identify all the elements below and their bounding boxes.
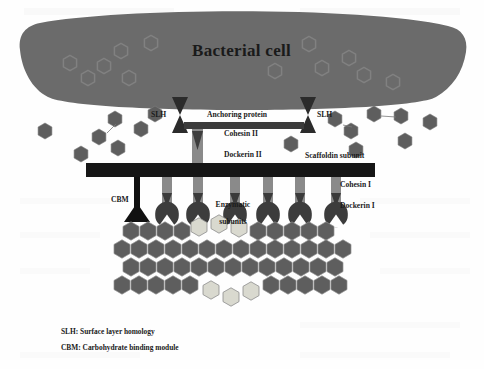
enzymatic-subunit — [155, 177, 179, 227]
label-cohesin-i: Cohesin I — [340, 181, 371, 189]
page-title: Bacterial cell — [192, 42, 291, 60]
substrate-row — [114, 276, 347, 306]
enzymatic-subunit — [288, 177, 312, 227]
label-dockerin-ii: Dockerin II — [224, 151, 262, 159]
label-cohesin-ii: Cohesin II — [224, 130, 258, 138]
cellulose-substrate — [114, 215, 351, 306]
substrate-row — [114, 240, 351, 258]
cohesin-dockerin-II-stem — [192, 129, 203, 163]
label-anchoring-protein: Anchoring protein — [207, 111, 267, 119]
legend-item-slh: SLH: Surface layer homology — [61, 328, 155, 336]
legend-item-cbm: CBM: Carbohydrate binding module — [61, 344, 179, 352]
label-dockerin-i: Dockerin I — [340, 202, 375, 210]
label-cbm: CBM — [111, 196, 129, 204]
anchoring-protein-bar — [184, 122, 304, 129]
label-enzymatic-subunits-line1: Enzymatic — [216, 200, 251, 209]
substrate-row — [123, 258, 343, 276]
label-scaffoldin-subunit: Scaffoldin subunit — [305, 152, 364, 160]
label-slh-left: SLH — [151, 111, 166, 119]
label-enzymatic-subunits-line2: subunits — [219, 217, 246, 226]
scaffoldin-subunit-bar — [86, 163, 375, 177]
label-slh-right: SLH — [317, 111, 332, 119]
enzymatic-subunit — [256, 177, 280, 227]
free-hexagons-left — [38, 106, 162, 162]
bacterial-cell-body — [20, 11, 467, 110]
label-enzymatic-subunits: Enzymatic subunits — [203, 193, 259, 226]
